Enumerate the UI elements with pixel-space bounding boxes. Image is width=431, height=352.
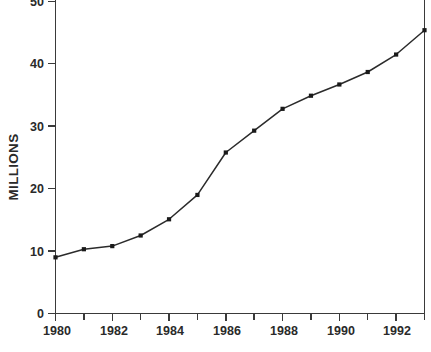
- series-markers: [53, 28, 426, 259]
- data-point-marker: [280, 107, 284, 111]
- data-point-marker: [366, 70, 370, 74]
- chart-page: 50 40 30 20 10 0 MILLIONS: [0, 0, 431, 352]
- y-tick-label-10: 10: [30, 245, 44, 259]
- x-tick-labels: 1980 1982 1984 1986 1988 1990 1992: [43, 324, 411, 338]
- axes-group: [56, 0, 425, 314]
- y-tick-label-0: 0: [37, 307, 44, 321]
- x-tick-marks: [56, 314, 425, 322]
- data-point-marker: [337, 82, 341, 86]
- series-line-millions: [56, 30, 425, 257]
- data-point-marker: [224, 150, 228, 154]
- x-tick-label-1986: 1986: [213, 324, 241, 338]
- data-point-marker: [110, 244, 114, 248]
- line-chart: 50 40 30 20 10 0 MILLIONS: [0, 0, 431, 352]
- x-tick-label-1980: 1980: [43, 324, 71, 338]
- y-tick-label-50: 50: [30, 0, 44, 9]
- data-point-marker: [309, 94, 313, 98]
- data-point-marker: [53, 255, 57, 259]
- data-point-marker: [195, 193, 199, 197]
- y-tick-label-20: 20: [30, 182, 44, 196]
- x-tick-label-1982: 1982: [100, 324, 128, 338]
- data-point-marker: [139, 233, 143, 237]
- data-point-marker: [394, 52, 398, 56]
- data-point-marker: [167, 217, 171, 221]
- y-tick-labels: 50 40 30 20 10 0: [30, 0, 44, 321]
- data-point-marker: [252, 129, 256, 133]
- x-tick-label-1990: 1990: [327, 324, 355, 338]
- y-tick-marks: [48, 2, 56, 314]
- x-tick-label-1992: 1992: [383, 324, 411, 338]
- x-tick-label-1984: 1984: [156, 324, 184, 338]
- y-axis-title: MILLIONS: [6, 134, 21, 201]
- y-tick-label-40: 40: [30, 57, 44, 71]
- x-tick-label-1988: 1988: [270, 324, 298, 338]
- data-point-marker: [422, 28, 426, 32]
- y-tick-label-30: 30: [30, 120, 44, 134]
- data-point-marker: [82, 247, 86, 251]
